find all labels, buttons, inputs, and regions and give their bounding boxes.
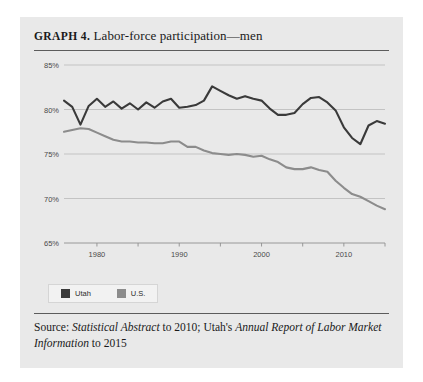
graph-card: GRAPH 4. Labor-force participation—men 6… (20, 17, 403, 368)
y-axis-tick-label: 75% (44, 150, 59, 159)
series-line-us (64, 128, 385, 209)
y-axis-tick-label: 80% (44, 106, 59, 115)
graph-number: GRAPH 4. (34, 30, 90, 42)
divider-top (34, 50, 389, 51)
source-suffix: to 2015 (89, 337, 127, 349)
source-prefix: Source: (34, 321, 72, 333)
source-note: Source: Statistical Abstract to 2010; Ut… (34, 320, 390, 351)
x-axis-tick-label: 1990 (171, 250, 188, 259)
x-axis-tick-label: 2000 (253, 250, 270, 259)
legend-swatch-utah (61, 289, 70, 298)
graph-title-text: Labor-force participation—men (93, 28, 262, 43)
y-axis-tick-label: 70% (44, 195, 59, 204)
x-axis-tick-label: 1980 (89, 250, 106, 259)
legend-item-utah[interactable]: Utah (61, 289, 91, 298)
series-line-utah (64, 86, 385, 144)
legend-swatch-us (117, 289, 126, 298)
y-axis-tick-label: 85% (44, 61, 59, 70)
chart-plot-area: 65%70%75%80%85%1980199020002010 (34, 59, 389, 269)
legend-item-us[interactable]: U.S. (117, 289, 146, 298)
line-chart: 65%70%75%80%85%1980199020002010 (34, 59, 389, 269)
chart-legend: Utah U.S. (48, 284, 158, 303)
source-italic-statistical-abstract: Statistical Abstract (72, 321, 160, 333)
legend-label-utah: Utah (75, 289, 91, 298)
x-axis-tick-label: 2010 (336, 250, 353, 259)
page-title: GRAPH 4. Labor-force participation—men (34, 28, 263, 44)
source-mid: to 2010; Utah's (160, 321, 236, 333)
legend-label-us: U.S. (131, 289, 146, 298)
divider-bottom (34, 313, 389, 314)
y-axis-tick-label: 65% (44, 239, 59, 248)
